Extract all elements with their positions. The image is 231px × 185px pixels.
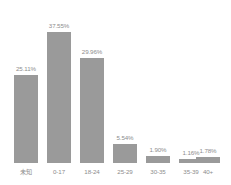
- x-axis-tick-label: 40+: [196, 167, 220, 176]
- bar[interactable]: [80, 58, 104, 163]
- bar-value-label: 25.11%: [16, 65, 36, 73]
- bar-value-label: 1.78%: [199, 147, 216, 155]
- bar-chart: 25.11% 37.55% 29.96% 5.54% 1.90% 1.16% 1…: [0, 0, 231, 185]
- bar-group[interactable]: 37.55%: [47, 3, 71, 163]
- x-axis-tick-label: 25-29: [113, 167, 137, 176]
- x-axis-tick-label: 未知: [14, 167, 38, 176]
- bar-group[interactable]: 5.54%: [113, 3, 137, 163]
- bar-group[interactable]: 29.96%: [80, 3, 104, 163]
- bar-group[interactable]: 1.90%: [146, 3, 170, 163]
- x-axis-tick-label: 0-17: [47, 167, 71, 176]
- bar-value-label: 5.54%: [116, 134, 133, 142]
- bar[interactable]: [196, 157, 220, 163]
- bar-group[interactable]: 1.78%: [196, 3, 220, 163]
- chart-plot-area: 25.11% 37.55% 29.96% 5.54% 1.90% 1.16% 1…: [0, 0, 231, 163]
- bar-value-label: 1.90%: [149, 146, 166, 154]
- bar[interactable]: [47, 32, 71, 163]
- bar[interactable]: [14, 75, 38, 163]
- bar[interactable]: [146, 156, 170, 163]
- bar-value-label: 37.55%: [49, 22, 69, 30]
- bar[interactable]: [113, 144, 137, 163]
- x-axis-tick-label: 18-24: [80, 167, 104, 176]
- x-axis-tick-label: 30-35: [146, 167, 170, 176]
- bar-group[interactable]: 25.11%: [14, 3, 38, 163]
- bar-value-label: 29.96%: [82, 48, 102, 56]
